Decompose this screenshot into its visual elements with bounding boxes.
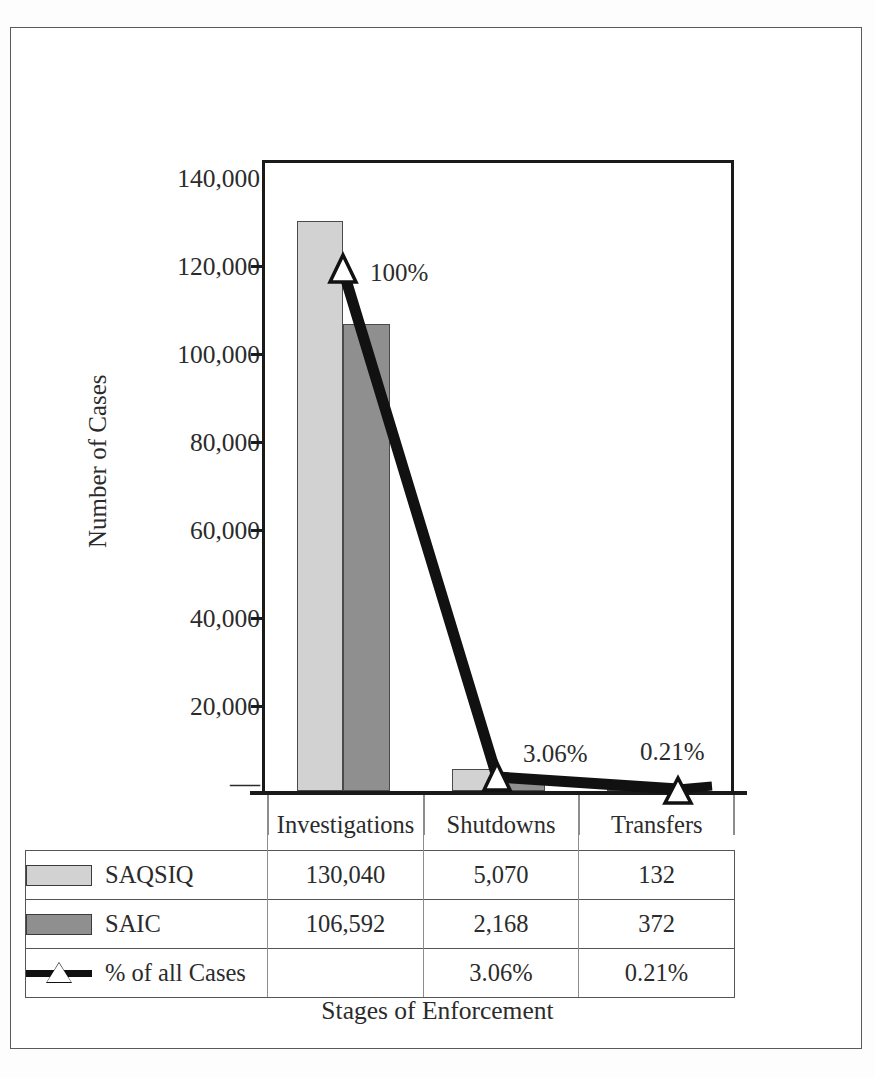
bar-saqsiq-shutdowns [452, 769, 498, 791]
data-table: Investigations Shutdowns Transfers SAQSI… [25, 800, 735, 998]
annotation-pct-shutdowns: 3.06% [523, 740, 588, 768]
bar-saqsiq-investigations [297, 221, 343, 791]
bar-saqsiq-transfers [607, 788, 653, 791]
annotation-pct-transfers: 0.21% [640, 738, 705, 766]
legend-label-saic: SAIC [105, 910, 161, 938]
table-row-label-saqsiq: SAQSIQ [26, 851, 268, 900]
y-axis-title: Number of Cases [84, 268, 112, 548]
chart-figure: Number of Cases 140,000 120,000 100,000 … [0, 0, 875, 1078]
data-table-wrapper: Investigations Shutdowns Transfers SAQSI… [25, 800, 734, 998]
cell-percent-shutdowns: 3.06% [424, 949, 579, 998]
table-row: % of all Cases 3.06% 0.21% [26, 949, 735, 998]
x-axis-title: Stages of Enforcement [0, 996, 875, 1026]
y-tick-label-140000: 140,000 [100, 164, 260, 194]
cell-saic-investigations: 106,592 [268, 900, 424, 949]
table-row: SAQSIQ 130,040 5,070 132 [26, 851, 735, 900]
cell-percent-investigations [268, 949, 424, 998]
annotation-pct-investigations: 100% [370, 259, 428, 287]
y-tick-label-40000: 40,000 [100, 604, 260, 634]
cell-percent-transfers: 0.21% [579, 949, 735, 998]
y-tick-label-80000: 80,000 [100, 428, 260, 458]
legend-swatch-saqsiq [26, 865, 92, 886]
table-header-blank [26, 800, 268, 851]
cell-saqsiq-transfers: 132 [579, 851, 735, 900]
bar-saic-investigations [343, 324, 390, 791]
legend-triangle-icon [47, 963, 71, 982]
cell-saqsiq-shutdowns: 5,070 [424, 851, 579, 900]
y-tick-label-100000: 100,000 [100, 340, 260, 370]
cell-saic-shutdowns: 2,168 [424, 900, 579, 949]
legend-swatch-percent-line [26, 962, 92, 984]
table-row-label-saic: SAIC [26, 900, 268, 949]
bar-saic-transfers [653, 787, 700, 791]
cell-saqsiq-investigations: 130,040 [268, 851, 424, 900]
table-header-transfers: Transfers [579, 800, 735, 851]
y-tick-label-20000: 20,000 [100, 692, 260, 722]
x-axis-baseline [250, 791, 747, 795]
table-header-row: Investigations Shutdowns Transfers [26, 800, 735, 851]
table-header-investigations: Investigations [268, 800, 424, 851]
table-header-shutdowns: Shutdowns [424, 800, 579, 851]
legend-label-saqsiq: SAQSIQ [105, 861, 194, 889]
y-tick-label-60000: 60,000 [100, 516, 260, 546]
bar-saic-shutdowns [498, 781, 545, 791]
legend-label-percent: % of all Cases [105, 959, 246, 987]
y-tick-label-zero: — [100, 766, 260, 800]
legend-swatch-saic [26, 914, 92, 935]
table-row-label-percent: % of all Cases [26, 949, 268, 998]
table-row: SAIC 106,592 2,168 372 [26, 900, 735, 949]
y-tick-label-120000: 120,000 [100, 252, 260, 282]
cell-saic-transfers: 372 [579, 900, 735, 949]
